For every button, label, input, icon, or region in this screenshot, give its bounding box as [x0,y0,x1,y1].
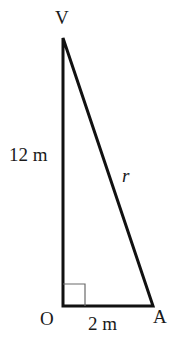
side-label-oa: 2 m [88,314,117,333]
side-label-va: r [122,166,129,185]
triangle-VOA [63,38,153,306]
vertex-label-o: O [40,309,54,328]
vertex-label-v: V [55,8,69,27]
side-label-vo: 12 m [9,145,48,164]
triangle-figure [0,0,178,342]
vertex-label-a: A [153,307,167,326]
right-angle-marker [63,284,85,306]
